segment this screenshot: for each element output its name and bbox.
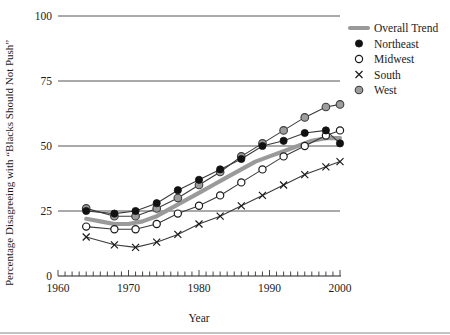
series-group <box>82 101 343 251</box>
y-axis-tick-labels: 0255075100 <box>35 10 53 282</box>
data-point-marker <box>280 153 287 160</box>
data-point-marker <box>355 55 362 62</box>
figure-container: 0255075100 19601970198019902000 Percenta… <box>0 0 450 335</box>
data-point-marker <box>83 223 90 230</box>
y-tick-label: 0 <box>46 270 52 282</box>
data-point-marker <box>336 140 343 147</box>
legend-item-south[interactable]: South <box>356 69 402 81</box>
x-axis-tick-labels: 19601970198019902000 <box>47 282 352 294</box>
data-point-marker <box>259 166 266 173</box>
data-point-marker <box>83 234 90 241</box>
legend-item-overall-trend[interactable]: Overall Trend <box>350 22 438 34</box>
data-point-marker <box>217 213 224 220</box>
data-point-marker <box>217 192 224 199</box>
series-midwest <box>83 127 344 233</box>
data-point-marker <box>196 221 203 228</box>
data-point-marker <box>301 171 308 178</box>
legend-label: South <box>374 69 401 81</box>
data-point-marker <box>238 155 245 162</box>
data-point-marker <box>280 182 287 189</box>
data-point-marker <box>153 239 160 246</box>
data-point-marker <box>355 40 362 47</box>
data-point-marker <box>111 226 118 233</box>
series-south <box>83 158 344 251</box>
data-point-marker <box>217 166 224 173</box>
line-chart: 0255075100 19601970198019902000 Percenta… <box>0 0 450 335</box>
data-point-marker <box>336 101 344 109</box>
y-axis-title: Percentage Disagreeing with “Blacks Shou… <box>3 40 15 286</box>
series-northeast <box>83 127 344 217</box>
data-point-marker <box>301 142 308 149</box>
data-point-marker <box>322 127 329 134</box>
data-point-marker <box>280 137 287 144</box>
x-tick-label: 1970 <box>117 282 140 294</box>
x-tick-label: 1980 <box>188 282 211 294</box>
data-point-marker <box>280 127 288 135</box>
data-point-marker <box>132 207 139 214</box>
data-point-marker <box>174 210 181 217</box>
series-path <box>86 162 340 248</box>
y-tick-label: 75 <box>41 75 53 87</box>
legend-label: Overall Trend <box>374 22 438 34</box>
x-tick-label: 1990 <box>258 282 281 294</box>
data-point-marker <box>195 176 202 183</box>
data-point-marker <box>238 202 245 209</box>
data-point-marker <box>259 142 266 149</box>
data-point-marker <box>355 86 363 94</box>
data-point-marker <box>259 192 266 199</box>
legend-item-west[interactable]: West <box>355 84 397 96</box>
legend-label: Northeast <box>374 38 420 50</box>
data-point-marker <box>174 194 182 202</box>
y-tick-label: 100 <box>35 10 53 22</box>
data-point-marker <box>132 226 139 233</box>
data-point-marker <box>195 202 202 209</box>
data-point-marker <box>322 103 330 111</box>
legend-item-northeast[interactable]: Northeast <box>355 38 419 50</box>
data-point-marker <box>174 231 181 238</box>
data-point-marker <box>322 163 329 170</box>
data-point-marker <box>337 158 344 165</box>
data-point-marker <box>301 114 309 122</box>
y-tick-label: 25 <box>41 205 53 217</box>
data-point-marker <box>301 129 308 136</box>
data-point-marker <box>174 187 181 194</box>
data-point-marker <box>356 71 363 78</box>
chart-legend: Overall TrendNortheastMidwestSouthWest <box>350 22 438 96</box>
x-tick-label: 1960 <box>47 282 70 294</box>
data-point-marker <box>153 200 160 207</box>
data-point-marker <box>83 207 90 214</box>
data-point-marker <box>238 179 245 186</box>
data-point-marker <box>111 210 118 217</box>
legend-label: West <box>374 84 398 96</box>
x-axis-title: Year <box>188 312 209 324</box>
series-west <box>82 101 343 220</box>
x-tick-label: 2000 <box>329 282 352 294</box>
data-point-marker <box>153 220 160 227</box>
legend-item-midwest[interactable]: Midwest <box>355 53 415 65</box>
x-axis-minor-ticks <box>58 270 340 276</box>
data-point-marker <box>336 127 343 134</box>
y-tick-label: 50 <box>41 140 53 152</box>
legend-label: Midwest <box>374 53 415 65</box>
